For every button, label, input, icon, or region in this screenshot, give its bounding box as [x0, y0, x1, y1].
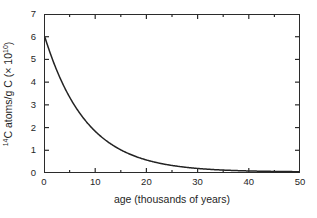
- y-tick-label: 7: [10, 9, 36, 19]
- y-tick-label: 2: [10, 123, 36, 133]
- plot-area: [44, 14, 300, 173]
- x-tick-label: 50: [283, 176, 317, 187]
- x-tick-label: 20: [129, 176, 163, 187]
- y-tick-label: 1: [10, 145, 36, 155]
- y-axis-label-close: ): [2, 41, 14, 45]
- y-axis-label-isotope-superscript: 14: [2, 138, 9, 146]
- x-tick-label: 40: [232, 176, 266, 187]
- decay-curve-svg: [45, 15, 299, 172]
- y-tick-label: 5: [10, 54, 36, 64]
- y-tick-label: 4: [10, 77, 36, 87]
- chart-figure: 14C atoms/g C (× 1010) 01020304050 01234…: [0, 0, 317, 218]
- y-tick-label: 6: [10, 32, 36, 42]
- y-axis-label-exponent: 10: [2, 45, 9, 53]
- x-tick-label: 30: [181, 176, 215, 187]
- y-tick-label: 3: [10, 100, 36, 110]
- x-axis-label: age (thousands of years): [44, 193, 300, 205]
- y-tick-label: 0: [10, 168, 36, 178]
- x-tick-label: 10: [78, 176, 112, 187]
- decay-curve-path: [45, 37, 299, 171]
